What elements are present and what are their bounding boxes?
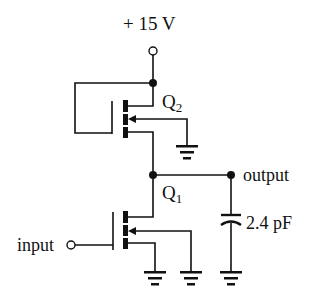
- capacitor-label: 2.4 pF: [246, 213, 292, 233]
- input-terminal: [67, 241, 75, 249]
- q1-body-wire: [130, 231, 191, 271]
- q1-source-wire: [127, 243, 155, 271]
- output-label: output: [243, 165, 289, 185]
- q2-source-wire: [127, 132, 153, 175]
- q2-channel-drain: [123, 100, 128, 112]
- junction-dot: [149, 171, 157, 179]
- q1-label: Q1: [162, 182, 182, 206]
- q1-channel-source: [123, 238, 128, 249]
- q2-channel-body: [123, 114, 128, 125]
- ground-icon: [220, 271, 242, 286]
- ground-icon: [180, 271, 202, 286]
- output-node-dot: [227, 171, 235, 179]
- supply-label: + 15 V: [123, 13, 176, 34]
- circuit-diagram: + 15 V Q2 Q1 output input 2.4 pF: [0, 0, 319, 297]
- ground-icon: [144, 271, 166, 286]
- input-label: input: [17, 235, 54, 255]
- q2-body-arrow-icon: [128, 115, 136, 123]
- q2-drain-wire: [127, 83, 153, 106]
- q1-body-arrow-icon: [128, 227, 136, 235]
- junction-dot: [149, 79, 157, 87]
- q2-label: Q2: [162, 91, 182, 115]
- q1-channel-drain: [123, 211, 128, 223]
- q1-channel-body: [123, 225, 128, 236]
- ground-icon: [176, 145, 198, 160]
- q2-channel-source: [123, 127, 128, 138]
- supply-terminal: [149, 47, 157, 55]
- q2-gate-tie-wire: [75, 83, 153, 133]
- q1-drain-wire: [127, 175, 153, 217]
